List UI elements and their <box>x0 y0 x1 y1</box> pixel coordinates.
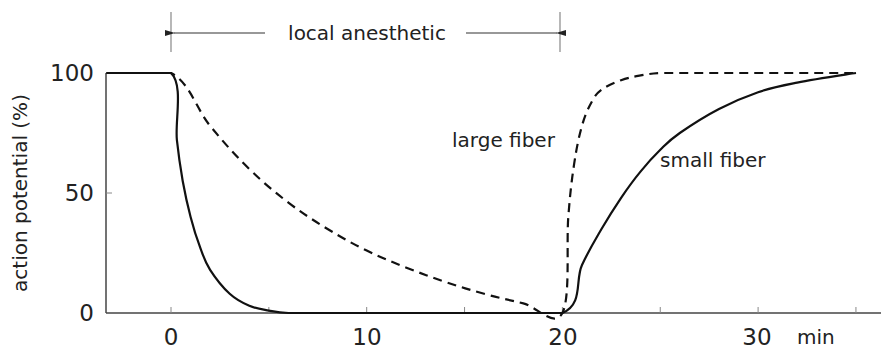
x-tick-label-10: 10 <box>352 324 381 350</box>
y-tick-label-0: 0 <box>79 300 94 326</box>
large-fiber-label: large fiber <box>452 128 556 152</box>
small-fiber-label: small fiber <box>660 148 766 172</box>
local-anesthetic-bracket: local anesthetic <box>171 12 560 52</box>
bracket-label: local anesthetic <box>288 21 446 45</box>
axes <box>106 73 881 313</box>
y-tick-label-50: 50 <box>65 180 94 206</box>
x-tick-label-20: 20 <box>548 324 577 350</box>
x-tick-label-30: 30 <box>742 324 771 350</box>
small-fiber-curve <box>106 73 856 313</box>
x-axis-unit: min <box>797 325 835 349</box>
x-tick-label-0: 0 <box>164 324 179 350</box>
action-potential-chart: 100 50 0 0 10 20 30 min action potential… <box>0 0 888 364</box>
y-axis-label: action potential (%) <box>8 94 32 292</box>
y-tick-label-100: 100 <box>50 60 94 86</box>
